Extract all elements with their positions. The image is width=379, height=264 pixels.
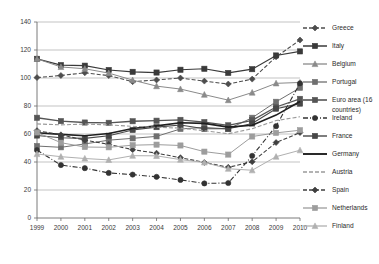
data-point [273,106,278,111]
x-axis-tick-label: 2009 [269,224,284,231]
legend-label-continued: countries) [332,106,361,114]
x-axis-tick-label: 2006 [197,224,212,231]
legend-label[interactable]: Netherlands [332,204,368,211]
data-point [106,170,111,175]
data-point [106,145,111,150]
legend-label[interactable]: Euro area (16 [332,96,373,104]
legend-label[interactable]: Germany [332,150,360,158]
legend-label[interactable]: Spain [332,186,349,194]
data-point [273,130,278,135]
data-point [273,53,278,58]
series-line [37,51,300,73]
data-point [297,128,302,133]
data-point [249,76,255,82]
data-point [177,75,183,81]
data-point [154,142,159,147]
data-point [154,134,159,139]
data-point [58,140,63,145]
line-chart: 0204060801001201401999200020012002200320… [0,0,379,264]
series-greece [34,37,303,87]
y-axis-tick-label: 60 [24,130,32,137]
data-point [178,67,183,72]
y-axis-tick-label: 120 [20,46,31,53]
data-point [130,119,135,124]
x-axis-tick-label: 2002 [101,224,116,231]
y-axis-tick-label: 0 [27,214,31,221]
legend-swatch-marker [312,115,317,120]
data-point [297,96,302,101]
data-point [226,70,231,75]
data-point [297,147,303,153]
data-point [273,124,278,129]
data-point [82,144,87,149]
data-point [201,78,207,84]
legend-swatch-marker [312,205,317,210]
legend-label[interactable]: Austria [332,168,353,175]
y-axis-tick-label: 40 [24,158,32,165]
legend-label[interactable]: Portugal [332,78,357,86]
data-point [250,153,255,158]
x-axis-tick-label: 1999 [30,224,45,231]
chart-canvas: 0204060801001201401999200020012002200320… [0,0,379,264]
series-line [37,40,300,84]
data-point [130,136,135,141]
x-axis-tick-label: 2005 [173,224,188,231]
data-point [250,67,255,72]
data-point [58,119,63,124]
y-axis-tick-label: 100 [20,74,31,81]
data-point [297,81,302,86]
data-point [297,49,302,54]
data-point [34,115,39,120]
y-axis-tick-label: 20 [24,186,32,193]
legend-label[interactable]: France [332,132,353,139]
data-point [154,70,159,75]
data-point [58,162,63,167]
data-point [273,99,278,104]
legend-label[interactable]: Belgium [332,60,356,68]
data-point [202,181,207,186]
data-point [130,172,135,177]
y-axis-tick-label: 80 [24,102,32,109]
series-euro-area-16-countries [34,96,302,128]
x-axis-tick-label: 2000 [54,224,69,231]
legend-swatch-marker [312,79,317,84]
data-point [178,117,183,122]
data-point [130,69,135,74]
series-netherlands [34,128,302,158]
series-ireland [34,81,302,186]
data-point [58,72,64,78]
data-point [226,180,231,185]
data-point [154,174,159,179]
legend-label[interactable]: Greece [332,24,354,31]
data-point [250,134,255,139]
series-italy [34,49,302,76]
data-point [130,143,135,148]
data-point [202,66,207,71]
data-point [82,166,87,171]
series-line [37,83,300,183]
data-point [225,81,231,87]
legend-label[interactable]: Ireland [332,114,352,121]
data-point [226,152,231,157]
x-axis-tick-label: 2001 [78,224,93,231]
x-axis-tick-label: 2003 [125,224,140,231]
x-axis-tick-label: 2008 [245,224,260,231]
legend-label[interactable]: Finland [332,222,354,229]
legend-swatch-marker [312,97,317,102]
x-axis-tick-label: 2010 [293,224,308,231]
legend-swatch-marker [312,25,318,31]
data-point [178,143,183,148]
legend-swatch-marker [312,43,317,48]
data-point [178,177,183,182]
legend-swatch-marker [312,133,317,138]
data-point [202,149,207,154]
series-line [37,117,300,134]
data-point [154,118,159,123]
series-austria [37,117,300,134]
y-axis-tick-label: 140 [20,18,31,25]
data-point [34,75,40,81]
data-point [34,130,39,135]
legend-swatch-marker [312,187,318,193]
x-axis-tick-label: 2007 [221,224,236,231]
legend-label[interactable]: Italy [332,42,345,50]
